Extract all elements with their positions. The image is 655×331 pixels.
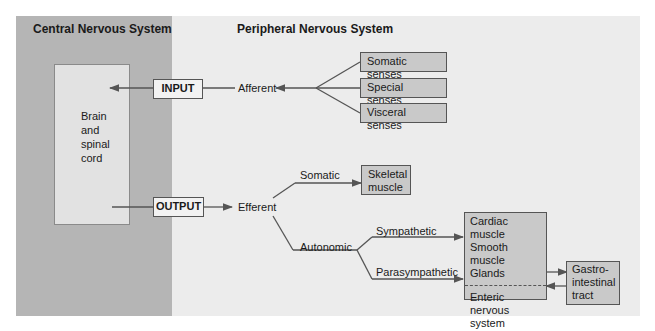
- output-box: OUTPUT: [153, 197, 204, 217]
- autonomic-label: Autonomic: [300, 241, 352, 253]
- gi-tract-box: Gastro- intestinal tract: [566, 261, 620, 305]
- special-senses-box: Special senses: [360, 78, 447, 98]
- afferent-label: Afferent: [238, 82, 276, 94]
- skeletal-muscle-box: Skeletal muscle: [361, 165, 411, 195]
- connector-lines: [0, 0, 655, 331]
- sympathetic-label: Sympathetic: [376, 225, 437, 237]
- efferent-label: Efferent: [238, 201, 276, 213]
- visceral-senses-box: Visceral senses: [360, 103, 447, 123]
- autonomic-targets-top: Cardiac muscle Smooth muscle Glands: [465, 213, 546, 282]
- parasympathetic-label: Parasympathetic: [376, 266, 458, 278]
- autonomic-targets-box: Cardiac muscle Smooth muscle Glands Ente…: [464, 212, 547, 300]
- enteric-nervous-system: Enteric nervous system: [465, 285, 546, 330]
- input-box: INPUT: [153, 79, 203, 99]
- somatic-label: Somatic: [300, 169, 340, 181]
- somatic-senses-box: Somatic senses: [360, 52, 447, 72]
